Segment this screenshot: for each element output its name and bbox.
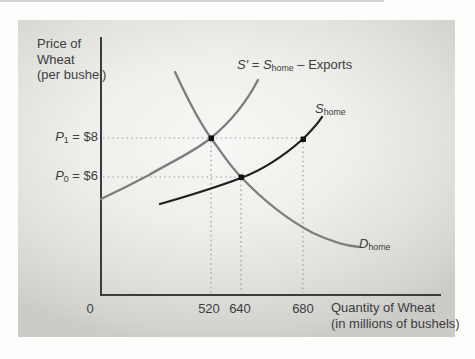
x-tick-680: 680 (288, 301, 318, 317)
s-prime-exports-text: – Exports (294, 57, 353, 72)
curve-label-s-home: Shome (315, 101, 346, 117)
home-supply-curve (160, 117, 322, 204)
y-axis-title: Price of Wheat (per bushel) (37, 36, 106, 83)
s-prime-shome-symbol: S (263, 57, 272, 72)
y-axis-title-line1: Price of (37, 36, 106, 52)
price-label-p1: P1 = $8 (46, 129, 98, 145)
x-tick-520: 520 (194, 301, 224, 317)
p0-symbol: P (55, 168, 64, 183)
page: Price of Wheat (per bushel) P1 = $8 P0 =… (0, 0, 475, 359)
curve-label-s-prime: S′ = Shome – Exports (237, 57, 352, 73)
point-640-6-marker (239, 175, 245, 181)
s-home-symbol: S (315, 101, 324, 116)
s-prime-subscript: home (272, 63, 294, 73)
price-label-p0: P0 = $6 (46, 168, 98, 184)
s-home-subscript: home (324, 107, 346, 117)
s-prime-equals: = (248, 57, 263, 72)
p1-value: = $8 (69, 129, 98, 144)
x-axis-title: Quantity of Wheat (in millions of bushel… (331, 300, 460, 331)
x-tick-640: 640 (225, 301, 255, 317)
curve-label-d-home: Dhome (359, 236, 390, 252)
d-home-subscript: home (368, 242, 390, 252)
p1-symbol: P (55, 129, 64, 144)
p0-value: = $6 (69, 168, 98, 183)
demand-curve-d-home (175, 72, 359, 247)
y-axis-title-line3: (per bushel) (37, 67, 106, 83)
figure-panel: Price of Wheat (per bushel) P1 = $8 P0 =… (18, 20, 455, 337)
page-edge-artifact (0, 0, 384, 2)
x-axis-title-line1: Quantity of Wheat (331, 300, 460, 316)
d-home-symbol: D (359, 236, 368, 251)
x-tick-origin: 0 (80, 301, 100, 317)
x-axis-title-line2: (in millions of bushels) (331, 316, 460, 332)
s-prime-symbol: S′ (237, 57, 248, 72)
point-680-8-marker (301, 137, 307, 143)
y-axis-title-line2: Wheat (37, 52, 106, 68)
point-520-8-marker (209, 136, 215, 142)
